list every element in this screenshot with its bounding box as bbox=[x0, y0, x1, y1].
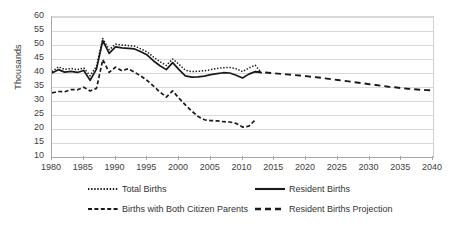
series-line bbox=[255, 72, 433, 91]
y-axis-tick: 20 bbox=[34, 123, 44, 132]
series-lines bbox=[52, 17, 433, 157]
legend-label: Resident Births bbox=[289, 184, 350, 194]
x-axis-tick-mark bbox=[400, 156, 401, 160]
y-axis-tick: 45 bbox=[34, 53, 44, 62]
y-axis-tick: 55 bbox=[34, 25, 44, 34]
legend-swatch-solid bbox=[255, 184, 285, 194]
legend-label: Total Births bbox=[122, 184, 167, 194]
x-axis-tick: 2040 bbox=[422, 162, 442, 172]
legend-item[interactable]: Resident Births bbox=[255, 184, 350, 194]
chart-container: Thousands 1015202530354045505560 1980198… bbox=[0, 0, 461, 230]
x-axis-tick: 2015 bbox=[263, 162, 283, 172]
x-axis-tick: 2030 bbox=[358, 162, 378, 172]
y-axis-tick: 30 bbox=[34, 95, 44, 104]
legend-label: Births with Both Citizen Parents bbox=[122, 204, 248, 214]
y-axis-tick: 15 bbox=[34, 137, 44, 146]
x-axis-tick: 1985 bbox=[73, 162, 93, 172]
x-axis-tick: 2005 bbox=[200, 162, 220, 172]
x-axis-tick: 2010 bbox=[231, 162, 251, 172]
legend-swatch-dashed-long bbox=[255, 204, 285, 214]
x-axis-tick-mark bbox=[273, 156, 274, 160]
x-axis-tick: 2000 bbox=[168, 162, 188, 172]
y-axis-tick: 40 bbox=[34, 67, 44, 76]
x-axis-tick-labels: 1980198519901995200020052010201520202025… bbox=[0, 160, 461, 180]
legend-label: Resident Births Projection bbox=[289, 204, 393, 214]
legend-item[interactable]: Resident Births Projection bbox=[255, 204, 393, 214]
x-axis-tick: 1990 bbox=[104, 162, 124, 172]
x-axis-tick-mark bbox=[210, 156, 211, 160]
x-axis-tick: 1980 bbox=[41, 162, 61, 172]
y-axis-tick: 25 bbox=[34, 109, 44, 118]
x-axis-tick: 2035 bbox=[390, 162, 410, 172]
y-axis-tick: 50 bbox=[34, 39, 44, 48]
y-axis-tick-labels: 1015202530354045505560 bbox=[0, 0, 50, 175]
x-axis-tick-mark bbox=[115, 156, 116, 160]
x-axis-tick-mark bbox=[337, 156, 338, 160]
x-axis-tick-mark bbox=[146, 156, 147, 160]
x-axis-tick-mark bbox=[432, 156, 433, 160]
legend-swatch-dotted bbox=[88, 184, 118, 194]
plot-area bbox=[51, 16, 434, 158]
x-axis-tick-mark bbox=[305, 156, 306, 160]
legend-swatch-dashed-fine bbox=[88, 204, 118, 214]
x-axis-tick-mark bbox=[242, 156, 243, 160]
y-axis-tick: 10 bbox=[34, 151, 44, 160]
legend-item[interactable]: Births with Both Citizen Parents bbox=[88, 204, 248, 214]
x-axis-tick-mark bbox=[178, 156, 179, 160]
series-line bbox=[52, 60, 255, 127]
x-axis-tick-mark bbox=[51, 156, 52, 160]
x-axis-tick-mark bbox=[369, 156, 370, 160]
x-axis-tick: 2020 bbox=[295, 162, 315, 172]
x-axis-tick: 2025 bbox=[327, 162, 347, 172]
legend-item[interactable]: Total Births bbox=[88, 184, 167, 194]
y-axis-tick: 35 bbox=[34, 81, 44, 90]
chart-legend: Total BirthsResident BirthsBirths with B… bbox=[0, 182, 461, 226]
series-line bbox=[52, 41, 262, 81]
x-axis-tick: 1995 bbox=[136, 162, 156, 172]
x-axis-tick-mark bbox=[83, 156, 84, 160]
y-axis-tick: 60 bbox=[34, 11, 44, 20]
